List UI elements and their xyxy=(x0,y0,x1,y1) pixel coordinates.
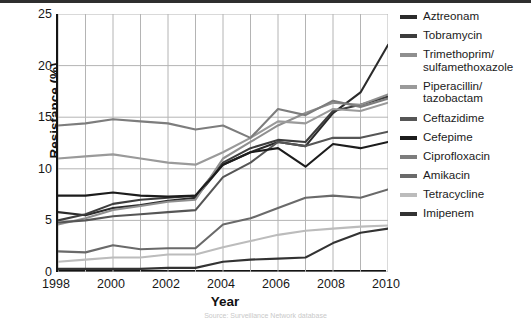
legend-item[interactable]: Trimethoprim/sulfamethoxazole xyxy=(400,48,531,73)
legend-label: Trimethoprim/sulfamethoxazole xyxy=(423,48,513,73)
y-tick-label: 5 xyxy=(18,214,52,226)
chart-figure: Resistance (%) 2520151050 19982000200220… xyxy=(0,0,531,322)
legend-color-swatch-icon xyxy=(400,174,417,178)
legend-label: Ciprofloxacin xyxy=(423,150,490,163)
legend-item[interactable]: Ciprofloxacin xyxy=(400,150,531,163)
x-tick-label: 2008 xyxy=(309,277,353,291)
series-line xyxy=(58,45,388,215)
x-tick-label: 2010 xyxy=(364,277,408,291)
legend-label: Ceftazidime xyxy=(423,112,484,125)
figure-caption: Source: Surveillance Network database xyxy=(0,312,531,322)
x-tick-label: 2004 xyxy=(199,277,243,291)
legend-item[interactable]: Tobramycin xyxy=(400,29,531,42)
legend-label: Amikacin xyxy=(423,169,470,182)
legend-color-swatch-icon xyxy=(400,85,417,89)
legend-item[interactable]: Aztreonam xyxy=(400,10,531,23)
legend-label-line2: sulfamethoxazole xyxy=(423,61,513,74)
legend-item[interactable]: Cefepime xyxy=(400,131,531,144)
legend-label: Tobramycin xyxy=(423,29,482,42)
legend-label-line2: tazobactam xyxy=(423,92,483,105)
series-line xyxy=(58,229,388,269)
legend-label: Imipenem xyxy=(423,207,474,220)
legend-color-swatch-icon xyxy=(400,136,417,140)
legend-item[interactable]: Piperacillin/tazobactam xyxy=(400,80,531,105)
x-tick-label: 2002 xyxy=(144,277,188,291)
legend-color-swatch-icon xyxy=(400,15,417,19)
legend-color-swatch-icon xyxy=(400,53,417,57)
legend-color-swatch-icon xyxy=(400,117,417,121)
series-line xyxy=(58,142,388,197)
legend-color-swatch-icon xyxy=(400,34,417,38)
x-tick-label: 2006 xyxy=(254,277,298,291)
legend-label: Aztreonam xyxy=(423,10,479,23)
y-axis-ticks: 2520151050 xyxy=(12,0,52,322)
x-axis-label: Year xyxy=(170,294,280,309)
legend-item[interactable]: Imipenem xyxy=(400,207,531,220)
x-tick-label: 2000 xyxy=(89,277,133,291)
y-tick-label: 15 xyxy=(18,111,52,123)
series-line xyxy=(58,189,388,252)
legend-color-swatch-icon xyxy=(400,193,417,197)
series-line xyxy=(58,99,388,138)
legend-item[interactable]: Ceftazidime xyxy=(400,112,531,125)
page-edge-shadow xyxy=(0,0,531,3)
series-line xyxy=(58,103,388,165)
y-tick-label: 10 xyxy=(18,163,52,175)
legend-color-swatch-icon xyxy=(400,212,417,216)
plot-area xyxy=(56,14,386,272)
y-tick-label: 20 xyxy=(18,60,52,72)
y-tick-label: 25 xyxy=(18,8,52,20)
legend-label: Cefepime xyxy=(423,131,473,144)
series-line xyxy=(58,226,388,262)
series-lines xyxy=(58,14,388,272)
legend-label: Tetracycline xyxy=(423,188,484,201)
legend-item[interactable]: Tetracycline xyxy=(400,188,531,201)
legend-item[interactable]: Amikacin xyxy=(400,169,531,182)
x-tick-label: 1998 xyxy=(34,277,78,291)
legend-label: Piperacillin/tazobactam xyxy=(423,80,483,105)
legend-color-swatch-icon xyxy=(400,155,417,159)
legend: AztreonamTobramycinTrimethoprim/sulfamet… xyxy=(400,10,531,226)
